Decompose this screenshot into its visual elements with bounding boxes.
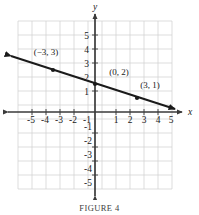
y-tick-label-neg4: -4 [84,164,92,174]
x-tick-label-5: 5 [169,115,174,125]
point-label-neg3-3: (−3, 3) [34,47,59,57]
graph-svg: -5 -4 -3 -2 -1 1 2 3 4 5 5 4 3 2 1 -1 -2… [0,0,199,200]
figure-container: -5 -4 -3 -2 -1 1 2 3 4 5 5 4 3 2 1 -1 -2… [0,0,199,215]
coordinate-plane: -5 -4 -3 -2 -1 1 2 3 4 5 5 4 3 2 1 -1 -2… [0,0,199,200]
y-tick-label-3: 3 [84,59,89,69]
x-tick-label-3: 3 [142,115,147,125]
y-tick-label-neg2: -2 [84,136,92,146]
point-label-0-2: (0, 2) [109,67,129,77]
y-tick-label-5: 5 [84,31,89,41]
x-tick-label-neg2: -2 [69,115,77,125]
x-tick-label-neg5: -5 [27,115,35,125]
x-tick-label-neg4: -4 [41,115,49,125]
x-axis-label: x [187,107,193,117]
y-tick-label-neg3: -3 [84,150,92,160]
data-point-marker [135,96,139,100]
y-tick-label-neg5: -5 [84,178,92,188]
y-tick-label-1: 1 [84,87,89,97]
x-tick-label-2: 2 [128,115,133,125]
x-tick-label-4: 4 [156,115,161,125]
data-point-marker [51,68,55,72]
y-tick-label-4: 4 [84,45,89,55]
y-tick-label-neg1: -1 [84,122,92,132]
point-label-3-1: (3, 1) [140,80,160,90]
data-point-marker [93,82,97,86]
figure-caption: FIGURE 4 [0,203,199,213]
y-axis-label: y [92,2,98,12]
x-tick-label-neg3: -3 [55,115,63,125]
x-tick-label-1: 1 [114,115,119,125]
